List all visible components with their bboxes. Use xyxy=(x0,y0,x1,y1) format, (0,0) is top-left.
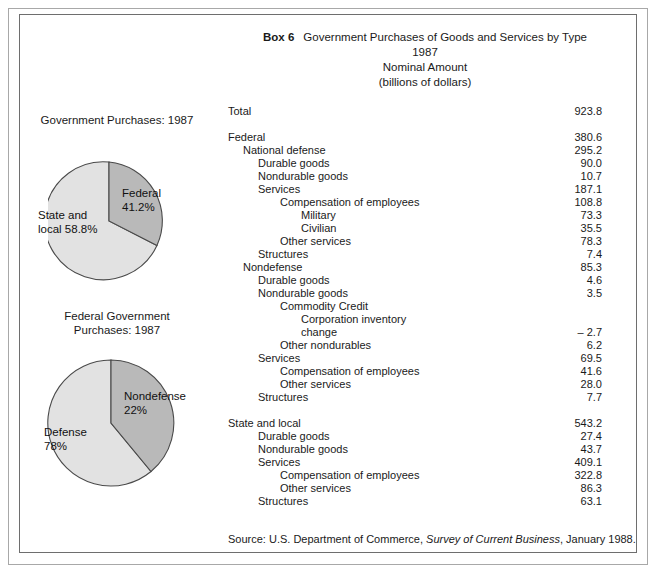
table-row-label: Corporation inventory xyxy=(228,313,406,326)
table-row: Durable goods4.6 xyxy=(228,274,602,287)
chart-title-government-purchases: Government Purchases: 1987 xyxy=(22,113,212,127)
table-row: Federal380.6 xyxy=(228,131,602,144)
pie-label-defense: Defense 78% xyxy=(44,425,87,453)
table-row-value: 4.6 xyxy=(587,274,602,287)
table-row: Structures7.7 xyxy=(228,391,602,404)
table-row-label: Structures xyxy=(228,248,308,261)
table-row-value: 41.6 xyxy=(581,365,602,378)
table-row: Other services86.3 xyxy=(228,482,602,495)
table-row-label: Services xyxy=(228,456,300,469)
chart2-title-line1: Federal Government xyxy=(22,309,212,323)
table-row: Commodity Credit xyxy=(228,300,602,313)
table-row: Nondurable goods10.7 xyxy=(228,170,602,183)
table-row-label: Durable goods xyxy=(228,157,330,170)
table-row-value: 322.8 xyxy=(574,469,602,482)
table-row-label: Other services xyxy=(228,235,351,248)
table-row-label: Durable goods xyxy=(228,274,330,287)
table-row-label: Services xyxy=(228,183,300,196)
pie-label-state-and-local: State and local 58.8% xyxy=(38,208,97,236)
table-row-label: Civilian xyxy=(228,222,336,235)
pie-label-nondefense: Nondefense 22% xyxy=(124,389,186,417)
pie-chart-2-svg xyxy=(46,358,176,488)
table-row-value: 85.3 xyxy=(581,261,602,274)
table-row: Durable goods27.4 xyxy=(228,430,602,443)
table-row: Total923.8 xyxy=(228,105,602,118)
table-row-label: Compensation of employees xyxy=(228,365,419,378)
table-row-spacer xyxy=(228,118,602,131)
pie-label-federal: Federal 41.2% xyxy=(122,186,161,214)
chart-title-federal-government-purchases: Federal Government Purchases: 1987 xyxy=(22,309,212,337)
pie-label-state-line1: State and xyxy=(38,208,97,222)
table-row-value: 28.0 xyxy=(581,378,602,391)
pie-label-defense-line1: Defense xyxy=(44,425,87,439)
box-year: 1987 xyxy=(225,45,625,60)
table-row: Structures7.4 xyxy=(228,248,602,261)
box-subtitle: Nominal Amount xyxy=(225,60,625,75)
table-row: Corporation inventory xyxy=(228,313,602,326)
table-row-value: 187.1 xyxy=(574,183,602,196)
table-row: Durable goods90.0 xyxy=(228,157,602,170)
table-row-value: 380.6 xyxy=(574,131,602,144)
pie-label-nondefense-line2: 22% xyxy=(124,403,186,417)
source-prefix: Source: U.S. Department of Commerce, xyxy=(228,533,423,545)
table-row-spacer xyxy=(228,404,602,417)
pie-label-federal-line2: 41.2% xyxy=(122,200,161,214)
table-row: Structures63.1 xyxy=(228,495,602,508)
table-row: Other services28.0 xyxy=(228,378,602,391)
table-row-label: Services xyxy=(228,352,300,365)
table-row-value: 3.5 xyxy=(587,287,602,300)
source-note: Source: U.S. Department of Commerce, Sur… xyxy=(228,533,636,545)
table-row-value: 7.4 xyxy=(587,248,602,261)
table-row-label: Total xyxy=(228,105,251,118)
box-number-label: Box 6 xyxy=(263,31,294,43)
table-row-label: State and local xyxy=(228,417,301,430)
box-title-text: Government Purchases of Goods and Servic… xyxy=(303,31,587,43)
table-row-label: National defense xyxy=(228,144,326,157)
table-row-value: 923.8 xyxy=(574,105,602,118)
box-figure-page: Box 6Government Purchases of Goods and S… xyxy=(0,0,657,573)
table-row-label: Nondefense xyxy=(228,261,302,274)
table-row-label: Compensation of employees xyxy=(228,196,419,209)
table-row: Compensation of employees41.6 xyxy=(228,365,602,378)
table-row-label: Durable goods xyxy=(228,430,330,443)
table-row-label: Nondurable goods xyxy=(228,170,348,183)
table-row-value: 63.1 xyxy=(581,495,602,508)
purchases-data-table: Total923.8Federal380.6National defense29… xyxy=(228,105,602,508)
table-row-value: 108.8 xyxy=(574,196,602,209)
pie-label-nondefense-line1: Nondefense xyxy=(124,389,186,403)
table-row: Services69.5 xyxy=(228,352,602,365)
table-row-value: 10.7 xyxy=(581,170,602,183)
pie-label-defense-line2: 78% xyxy=(44,439,87,453)
table-row-label: Other services xyxy=(228,482,351,495)
pie-label-state-line2: local 58.8% xyxy=(38,222,97,236)
pie-label-federal-line1: Federal xyxy=(122,186,161,200)
table-row-label: Compensation of employees xyxy=(228,469,419,482)
table-row-value: 35.5 xyxy=(581,222,602,235)
table-row: Nondurable goods3.5 xyxy=(228,287,602,300)
table-row-label: Other nondurables xyxy=(228,339,371,352)
table-row-label: Structures xyxy=(228,391,308,404)
table-row: Military73.3 xyxy=(228,209,602,222)
table-row: Compensation of employees108.8 xyxy=(228,196,602,209)
table-row: Other nondurables6.2 xyxy=(228,339,602,352)
table-row-label: Federal xyxy=(228,131,265,144)
table-row-label: Nondurable goods xyxy=(228,443,348,456)
table-row-value: 69.5 xyxy=(581,352,602,365)
table-row: Other services78.3 xyxy=(228,235,602,248)
table-row-value: 543.2 xyxy=(574,417,602,430)
table-row: State and local543.2 xyxy=(228,417,602,430)
table-row: National defense295.2 xyxy=(228,144,602,157)
table-row-value: 7.7 xyxy=(587,391,602,404)
table-row-value: 73.3 xyxy=(581,209,602,222)
box-heading: Box 6Government Purchases of Goods and S… xyxy=(225,30,625,90)
table-row-value: 90.0 xyxy=(581,157,602,170)
table-row-label: Military xyxy=(228,209,336,222)
table-row-label: Commodity Credit xyxy=(228,300,368,313)
table-row-value: 409.1 xyxy=(574,456,602,469)
table-row: Nondurable goods43.7 xyxy=(228,443,602,456)
table-row-label: change xyxy=(228,326,337,339)
box-title-line: Box 6Government Purchases of Goods and S… xyxy=(225,30,625,45)
table-row: Nondefense85.3 xyxy=(228,261,602,274)
table-row: change– 2.7 xyxy=(228,326,602,339)
table-row: Civilian35.5 xyxy=(228,222,602,235)
